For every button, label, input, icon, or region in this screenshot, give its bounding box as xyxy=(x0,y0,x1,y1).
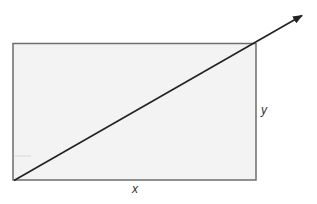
label-x: x xyxy=(132,183,138,195)
diagram-svg xyxy=(0,0,317,204)
diagram-canvas: x y xyxy=(0,0,317,204)
label-y: y xyxy=(261,104,267,116)
